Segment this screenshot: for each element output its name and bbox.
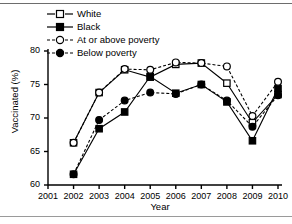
legend-swatch-open-circle-dashed: [46, 34, 74, 46]
x-tick-label-2001: 2001: [34, 191, 62, 201]
x-tick-label-2003: 2003: [85, 191, 113, 201]
data-point-marker: [223, 97, 230, 104]
legend-label-black: Black: [77, 21, 100, 33]
legend-item-white: White: [46, 7, 186, 20]
y-tick-label-65: 65: [24, 146, 40, 156]
data-point-marker: [121, 66, 128, 73]
legend-swatch-filled-square-solid: [46, 21, 74, 33]
y-tick-label-80: 80: [24, 45, 40, 55]
data-point-marker: [275, 78, 282, 85]
series-at-or-above-poverty: [70, 59, 281, 146]
x-tick-label-2004: 2004: [111, 191, 139, 201]
data-point-marker: [224, 80, 230, 86]
y-tick-label-70: 70: [24, 112, 40, 122]
x-tick-label-2005: 2005: [136, 191, 164, 201]
x-tick-label-2002: 2002: [60, 191, 88, 201]
data-point-marker: [96, 89, 103, 96]
data-point-marker: [198, 60, 205, 67]
legend-label-white: White: [77, 8, 101, 20]
series-white: [70, 60, 281, 146]
data-point-marker: [172, 59, 179, 66]
data-point-marker: [147, 73, 153, 79]
legend-item-black: Black: [46, 20, 186, 33]
chart-legend: White Black At or above poverty Below: [46, 7, 186, 59]
data-point-marker: [249, 113, 256, 120]
legend-label-below-poverty: Below poverty: [77, 47, 137, 59]
data-point-marker: [70, 139, 77, 146]
legend-label-at-or-above-poverty: At or above poverty: [77, 34, 159, 46]
data-point-marker: [121, 97, 128, 104]
axes-layer: [44, 49, 282, 189]
y-tick-label-75: 75: [24, 79, 40, 89]
data-point-marker: [147, 66, 154, 73]
data-point-marker: [198, 81, 205, 88]
x-tick-label-2010: 2010: [264, 191, 292, 201]
data-point-marker: [275, 92, 282, 99]
data-point-marker: [121, 109, 127, 115]
x-axis-title: Year: [40, 201, 280, 212]
x-tick-label-2006: 2006: [162, 191, 190, 201]
x-tick-label-2009: 2009: [238, 191, 266, 201]
data-point-marker: [172, 90, 179, 97]
chart-figure: White Black At or above poverty Below: [0, 0, 292, 224]
data-point-marker: [96, 117, 103, 124]
y-axis-title: Vaccinated (%): [9, 57, 20, 147]
data-point-marker: [249, 123, 256, 130]
x-tick-label-2008: 2008: [213, 191, 241, 201]
legend-item-below-poverty: Below poverty: [46, 46, 186, 59]
x-tick-label-2007: 2007: [187, 191, 215, 201]
data-point-marker: [249, 138, 255, 144]
data-point-marker: [70, 171, 77, 178]
data-series-layer: [70, 59, 281, 178]
legend-swatch-filled-circle-dashed: [46, 47, 74, 59]
legend-item-at-or-above-poverty: At or above poverty: [46, 33, 186, 46]
data-point-marker: [223, 63, 230, 70]
legend-swatch-open-square-solid: [46, 8, 74, 20]
data-point-marker: [275, 85, 281, 91]
y-tick-label-60: 60: [24, 179, 40, 189]
data-point-marker: [147, 89, 154, 96]
data-point-marker: [96, 126, 102, 132]
